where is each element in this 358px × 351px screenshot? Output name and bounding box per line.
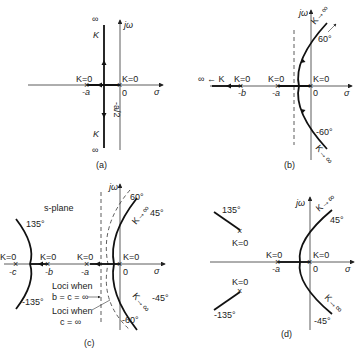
- note1-line1: Loci when: [52, 281, 93, 291]
- panel-c: jω σ s-plane × K=0 -c × K=0 -b × K=0 -a …: [0, 182, 169, 348]
- k-top-label: K→∞: [309, 3, 330, 26]
- pole-x-icon: ×: [117, 259, 122, 269]
- pole-x-icon: ×: [237, 286, 242, 296]
- pole-a-pos: -a: [82, 87, 90, 97]
- angle-60-label: 60°: [130, 192, 144, 202]
- jw-label: jω: [123, 20, 133, 30]
- s-plane-label: s-plane: [44, 203, 74, 213]
- sigma-label: σ: [345, 264, 351, 274]
- arrow-up-icon: [102, 60, 107, 65]
- top-k-label: K: [93, 30, 100, 40]
- panel-a: jω σ × × K=0 -a K=0 0 -a/2 ∞ K K ∞ (a): [28, 14, 163, 170]
- pole-x-icon: ×: [307, 257, 312, 267]
- sigma-label: σ: [154, 87, 160, 97]
- angle-135-label: 135°: [222, 205, 241, 215]
- sigma-label: σ: [344, 88, 350, 98]
- note2-line2: c = ∞: [60, 317, 81, 327]
- pole-a-label: K=0: [77, 252, 93, 262]
- pole-0-label: K=0: [123, 252, 139, 262]
- caption-a: (a): [96, 160, 107, 170]
- panel-b: jω σ ∞ ← K × K=0 -b × K=0 -a × K=0 0 60°…: [198, 3, 352, 170]
- angle-45-label: 45°: [330, 215, 344, 225]
- pole-0-label: K=0: [313, 250, 329, 260]
- upper-pole-label: K=0: [232, 238, 248, 248]
- arrow-icon: [38, 262, 43, 267]
- pole-c-pos: -c: [9, 267, 17, 277]
- top-inf-label: ∞: [92, 14, 98, 24]
- pole-b-label: K=0: [40, 252, 56, 262]
- k-bottom-label: K→∞: [323, 292, 345, 314]
- pole-0-pos: 0: [122, 88, 127, 98]
- pole-x-icon: ×: [237, 226, 242, 236]
- note2-pointer: [92, 300, 110, 310]
- arrow-left-icon: [97, 83, 102, 88]
- angle-m135-label: -135°: [214, 310, 236, 320]
- k-bottom-label: K→∞: [130, 291, 151, 314]
- arrow-icon: [95, 262, 100, 267]
- pole-a-pos: -a: [81, 267, 89, 277]
- angle-m60-label: -60°: [122, 315, 139, 325]
- caption-d: (d): [281, 329, 292, 339]
- pole-0-pos: 0: [123, 267, 128, 277]
- angle-135-label: 135°: [26, 219, 45, 229]
- breakaway-label: -a/2: [112, 102, 122, 118]
- angle-45-label: 45°: [150, 208, 164, 218]
- k-top-label: K→∞: [314, 192, 337, 213]
- arrow-down-icon: [102, 113, 107, 118]
- angle-arrow: [328, 24, 336, 32]
- pole-a-pos: -a: [272, 88, 280, 98]
- jw-label: jω: [108, 182, 118, 192]
- pole-c-label: K=0: [0, 252, 16, 262]
- angle-m60-label: -60°: [316, 127, 333, 137]
- caption-c: (c): [84, 338, 95, 348]
- left-k-label: ∞ ← K: [198, 74, 224, 84]
- sigma-label: σ: [154, 266, 160, 276]
- caption-b: (b): [284, 160, 295, 170]
- angle-60-label: 60°: [318, 34, 332, 44]
- lower-pole-label: K=0: [232, 277, 248, 287]
- panel-d: jω σ × K=0 × K=0 × K=0 -a × K=0 0 135° -…: [210, 192, 354, 339]
- jw-label: jω: [298, 8, 308, 18]
- angle-m45-label: -45°: [152, 293, 169, 303]
- jw-label: jω: [295, 198, 305, 208]
- root-locus-figure: jω σ × × K=0 -a K=0 0 -a/2 ∞ K K ∞ (a) j…: [0, 0, 358, 351]
- pole-0-pos: 0: [313, 88, 318, 98]
- angle-m45-label: -45°: [314, 316, 331, 326]
- pole-b-pos: -b: [45, 267, 53, 277]
- pole-b-label: K=0: [234, 74, 250, 84]
- pole-b-pos: -b: [238, 88, 246, 98]
- pole-0-pos: 0: [313, 264, 318, 274]
- note1-line2: b = c = ∞: [52, 292, 88, 302]
- bottom-inf-label: ∞: [92, 145, 98, 155]
- pole-a-label: K=0: [76, 74, 92, 84]
- pole-a-label: K=0: [266, 250, 282, 260]
- note2-line1: Loci when: [52, 306, 93, 316]
- pole-a-pos: -a: [272, 264, 280, 274]
- arrow-left-icon: [226, 84, 231, 89]
- pole-a-label: K=0: [268, 74, 284, 84]
- bottom-k-label: K: [93, 129, 100, 139]
- angle-m135-label: -135°: [22, 297, 44, 307]
- k-top-label: K→∞: [130, 203, 151, 226]
- pole-0-label: K=0: [122, 74, 138, 84]
- k-bottom-label: K→∞: [313, 143, 334, 166]
- pole-0-label: K=0: [313, 74, 329, 84]
